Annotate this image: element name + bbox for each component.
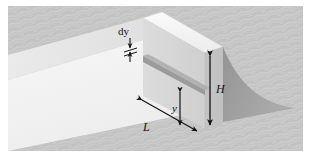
label-dy: dy: [118, 26, 129, 37]
figure-container: dy H y L: [0, 0, 311, 163]
dam-diagram-canvas: [0, 0, 311, 163]
label-H: H: [216, 83, 225, 95]
label-L: L: [143, 121, 150, 133]
label-y: y: [172, 103, 177, 114]
